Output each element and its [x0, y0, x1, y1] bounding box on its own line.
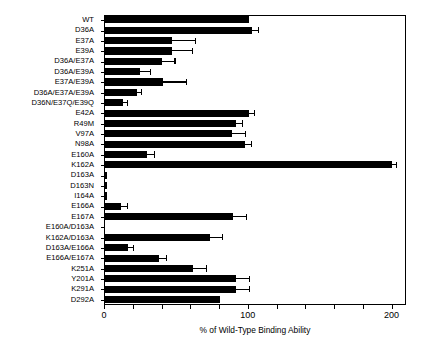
y-axis-tick-label: E37A	[75, 36, 94, 47]
y-axis-tick-label: D36A/E37A	[54, 56, 94, 67]
bar-row	[104, 264, 406, 275]
bar-row	[104, 181, 406, 192]
bar	[104, 110, 249, 117]
error-bar	[251, 30, 258, 31]
x-axis-tick	[104, 305, 105, 309]
error-bar-cap	[258, 27, 259, 33]
y-axis-labels: WTD36AE37AE39AD36A/E37AD36A/E39AE37A/E39…	[0, 15, 100, 305]
error-bar-cap	[251, 141, 252, 147]
error-bar-cap	[249, 286, 250, 292]
error-bar	[120, 206, 127, 207]
bar-row	[104, 129, 406, 140]
y-axis-tick-label: D36N/E37Q/E39Q	[32, 98, 94, 109]
error-bar	[162, 81, 186, 82]
error-bar-cap	[133, 245, 134, 251]
y-axis-tick	[101, 82, 105, 83]
bar	[104, 130, 232, 137]
error-bar-cap	[246, 214, 247, 220]
y-axis-tick	[101, 103, 105, 104]
y-axis-tick	[101, 93, 105, 94]
y-axis-tick-label: E42A	[75, 108, 94, 119]
y-axis-tick	[101, 196, 105, 197]
y-axis-tick	[101, 113, 105, 114]
bar	[104, 161, 392, 168]
bar	[104, 47, 172, 54]
error-bar	[158, 258, 166, 259]
y-axis-tick-label: D292A	[71, 295, 94, 306]
error-bar	[146, 154, 154, 155]
y-axis-tick	[101, 62, 105, 63]
bar-row	[104, 67, 406, 78]
y-axis-tick	[101, 289, 105, 290]
error-bar-cap	[154, 151, 155, 157]
bar-row	[104, 212, 406, 223]
y-axis-tick-label: E160A	[71, 150, 94, 161]
y-axis-tick-label: I164A	[74, 191, 94, 202]
x-axis-title: % of Wild-Type Binding Ability	[104, 325, 406, 335]
bar-row	[104, 36, 406, 47]
y-axis-tick-label: N98A	[75, 139, 94, 150]
x-axis-tick	[334, 305, 335, 309]
y-axis-tick-label: E39A	[75, 46, 94, 57]
bar	[104, 120, 236, 127]
error-bar-cap	[127, 203, 128, 209]
y-axis-tick-label: K162A/D163A	[46, 233, 94, 244]
bar-row	[104, 139, 406, 150]
bar-row	[104, 77, 406, 88]
x-axis-tick	[219, 305, 220, 309]
error-bar-cap	[166, 255, 167, 261]
y-axis-tick-label: D163A	[71, 170, 94, 181]
bar	[104, 275, 236, 282]
y-axis-tick	[101, 72, 105, 73]
y-axis-tick	[101, 227, 105, 228]
bar	[104, 244, 128, 251]
y-axis-tick	[101, 279, 105, 280]
x-axis-tick	[248, 305, 249, 309]
bar-row	[104, 119, 406, 130]
bar-row	[104, 56, 406, 67]
bar	[104, 265, 193, 272]
bar-row	[104, 170, 406, 181]
error-bar	[235, 278, 249, 279]
y-axis-tick	[101, 165, 105, 166]
error-bar-cap	[222, 234, 223, 240]
y-axis-tick-label: D163N	[70, 181, 94, 192]
error-bar-cap	[141, 89, 142, 95]
bar	[104, 234, 210, 241]
y-axis-tick	[101, 217, 105, 218]
error-bar	[139, 71, 150, 72]
y-axis-tick-label: D36A/E37A/E39A	[34, 88, 94, 99]
bar-row	[104, 274, 406, 285]
x-axis-tick	[162, 305, 163, 309]
bar	[104, 78, 163, 85]
bar-row	[104, 284, 406, 295]
bar	[104, 99, 123, 106]
bar	[104, 172, 107, 179]
x-axis-tick-label: 0	[84, 310, 124, 320]
x-axis-tick	[392, 305, 393, 309]
bar-row	[104, 222, 406, 233]
error-bar	[231, 133, 245, 134]
bar	[104, 68, 140, 75]
y-axis-tick-label: WT	[82, 15, 94, 26]
y-axis-tick-label: K291A	[71, 284, 94, 295]
error-bar-cap	[206, 265, 207, 271]
y-axis-tick	[101, 41, 105, 42]
bar-row	[104, 15, 406, 26]
x-axis-tick	[305, 305, 306, 309]
bar	[104, 89, 137, 96]
bar	[104, 151, 147, 158]
bar-row	[104, 88, 406, 99]
error-bar	[235, 123, 242, 124]
y-axis-tick-label: D36A	[75, 25, 94, 36]
x-axis-tick	[133, 305, 134, 309]
y-axis-tick	[101, 269, 105, 270]
error-bar-cap	[186, 79, 187, 85]
y-axis-tick	[101, 186, 105, 187]
bars-container	[104, 15, 406, 305]
bar-row	[104, 191, 406, 202]
error-bar	[161, 61, 175, 62]
bar-row	[104, 201, 406, 212]
bar	[104, 27, 252, 34]
y-axis-tick	[101, 144, 105, 145]
